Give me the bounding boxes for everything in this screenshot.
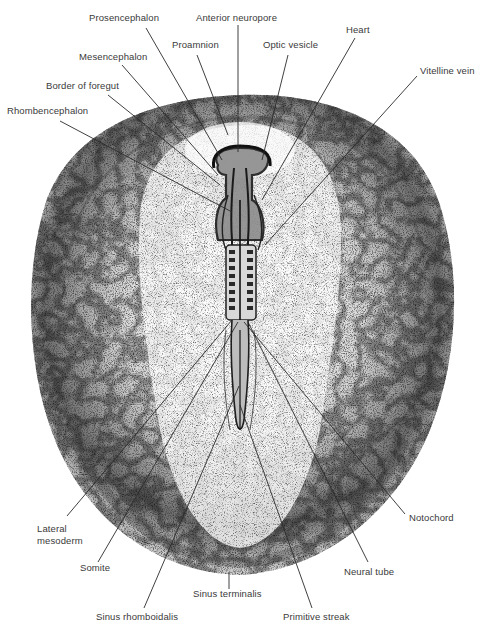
label-rhombencephalon: Rhombencephalon: [7, 105, 88, 116]
label-anterior-neuropore: Anterior neuropore: [196, 12, 277, 23]
label-neural-tube: Neural tube: [344, 566, 394, 577]
label-proamnion: Proamnion: [172, 39, 219, 50]
label-mesencephalon: Mesencephalon: [79, 51, 147, 62]
label-optic-vesicle: Optic vesicle: [263, 39, 318, 50]
label-sinus-rhomboidalis: Sinus rhomboidalis: [96, 611, 178, 622]
label-somite: Somite: [80, 562, 110, 573]
label-lateral-mesoderm-line2: mesoderm: [37, 535, 83, 546]
label-notochord: Notochord: [409, 512, 454, 523]
label-vitelline-vein: Vitelline vein: [420, 65, 475, 76]
label-sinus-terminalis: Sinus terminalis: [193, 588, 262, 599]
label-primitive-streak: Primitive streak: [283, 611, 350, 622]
embryo-diagram: ProsencephalonAnterior neuroporeProamnio…: [0, 0, 480, 630]
label-lateral-mesoderm: Lateral: [37, 523, 67, 534]
label-prosencephalon: Prosencephalon: [89, 12, 159, 23]
label-border-of-foregut: Border of foregut: [46, 80, 119, 91]
label-heart: Heart: [346, 24, 370, 35]
